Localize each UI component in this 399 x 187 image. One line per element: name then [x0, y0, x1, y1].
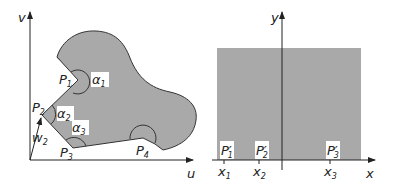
left-panel: v u P1 P2 P3 P4 α1 α2 α3 w2: [18, 10, 196, 181]
diagram-canvas: v u P1 P2 P3 P4 α1 α2 α3 w2 y x P′1 P′2 …: [0, 0, 399, 187]
region-shape: [42, 31, 196, 150]
x1-tick-label: x1: [217, 164, 231, 181]
v-axis-label: v: [18, 10, 26, 25]
p2-prime-label: P′2: [256, 143, 268, 160]
x-axis-label: x: [365, 166, 374, 181]
p3-prime-label: P′3: [327, 143, 339, 160]
p2-label: P2: [32, 100, 45, 117]
u-axis-label: u: [187, 166, 195, 181]
p3-label: P3: [60, 145, 73, 162]
x2-tick-label: x2: [252, 164, 266, 181]
x3-tick-label: x3: [323, 164, 337, 181]
y-axis-label: y: [270, 10, 279, 25]
p1-prime-label: P′1: [221, 143, 233, 160]
p4-label: P4: [136, 143, 149, 160]
w2-label: w2: [32, 130, 48, 147]
right-panel: y x P′1 P′2 P′3 x1 x2 x3: [212, 10, 375, 181]
